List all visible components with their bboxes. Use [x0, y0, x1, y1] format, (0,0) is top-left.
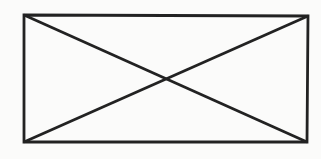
crossed-rectangle-figure: [0, 0, 321, 159]
figure-canvas: [0, 0, 321, 159]
